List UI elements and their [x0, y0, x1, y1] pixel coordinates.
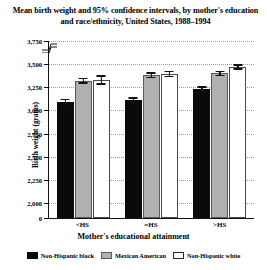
error-bar-cap-top [97, 75, 106, 76]
bar-group [57, 41, 110, 218]
error-bar-cap-bottom [233, 68, 242, 69]
error-bar [233, 64, 242, 70]
error-bar-cap-top [197, 86, 206, 87]
bar[interactable] [125, 100, 142, 218]
error-bar-cap-top [233, 64, 242, 65]
error-bar-cap-bottom [165, 76, 174, 77]
bar[interactable] [193, 89, 210, 218]
error-bar-cap-bottom [215, 75, 224, 76]
bar[interactable] [161, 74, 178, 218]
bar-slot [161, 41, 178, 218]
error-bar-cap-bottom [197, 91, 206, 92]
legend-label: Mexican American [115, 252, 166, 259]
legend-label: Non-Hispanic white [187, 252, 240, 259]
x-tick-labels: <HS=HS>HS [48, 221, 254, 229]
bar[interactable] [229, 67, 246, 218]
legend-label: Non-Hispanic black [41, 252, 94, 259]
legend-item[interactable]: Non-Hispanic black [27, 252, 94, 259]
y-axis-tick [44, 218, 48, 219]
y-axis-tick [44, 203, 48, 204]
y-tick-label: 2,250 [27, 176, 42, 183]
bar-slot [211, 41, 228, 218]
bar[interactable] [57, 102, 74, 218]
error-bar-cap-top [215, 71, 224, 72]
y-tick-label: 2,750 [27, 130, 42, 137]
y-axis-tick [44, 87, 48, 88]
error-bar-cap-bottom [61, 104, 70, 105]
bar[interactable] [143, 75, 160, 218]
y-tick-label: 3,750 [27, 38, 42, 45]
y-tick-label: 2,500 [27, 153, 42, 160]
x-axis-title: Mother's educational attainment [0, 232, 267, 241]
error-bar-cap-bottom [97, 83, 106, 84]
bar-groups [49, 41, 254, 218]
y-tick-label: 3,000 [27, 107, 42, 114]
error-bar-cap-top [165, 71, 174, 72]
bar[interactable] [93, 80, 110, 218]
error-bar [197, 86, 206, 92]
legend-item[interactable]: Non-Hispanic white [173, 252, 240, 259]
y-tick-label: 2,000 [27, 200, 42, 207]
legend-swatch [173, 252, 184, 259]
y-tick-label: 0 [39, 215, 42, 222]
error-bar [97, 75, 106, 84]
error-bar-cap-bottom [79, 82, 88, 83]
y-tick-label: 3,250 [27, 84, 42, 91]
error-bar-cap-bottom [147, 77, 156, 78]
chart-title: Mean birth weight and 95% confidence int… [10, 6, 261, 27]
error-bar-cap-top [147, 72, 156, 73]
y-axis-tick [44, 180, 48, 181]
y-tick-label: 3,500 [27, 61, 42, 68]
error-bar-cap-top [129, 97, 138, 98]
x-tick-label: =HS [121, 221, 181, 229]
y-axis-tick [44, 157, 48, 158]
error-bar [61, 99, 70, 105]
plot-area: 3,7503,5003,2503,0002,7502,5002,2502,000… [48, 41, 254, 219]
error-bar [215, 71, 224, 77]
y-axis-tick [44, 64, 48, 65]
legend-swatch [101, 252, 112, 259]
birth-weight-bar-chart: Mean birth weight and 95% confidence int… [0, 0, 267, 270]
chart-legend: Non-Hispanic blackMexican AmericanNon-Hi… [0, 252, 267, 259]
error-bar [165, 71, 174, 77]
bar-slot [75, 41, 92, 218]
error-bar [147, 72, 156, 78]
y-axis-tick [44, 110, 48, 111]
bar-slot [143, 41, 160, 218]
bar[interactable] [211, 73, 228, 218]
bar-slot [229, 41, 246, 218]
error-bar-cap-top [79, 78, 88, 79]
legend-item[interactable]: Mexican American [101, 252, 166, 259]
x-tick-label: >HS [190, 221, 250, 229]
bar-slot [125, 41, 142, 218]
legend-swatch [27, 252, 38, 259]
x-tick-label: <HS [52, 221, 112, 229]
y-axis-tick [44, 134, 48, 135]
error-bar-cap-bottom [129, 102, 138, 103]
bar-group [193, 41, 246, 218]
error-bar-cap-top [61, 99, 70, 100]
bar-group [125, 41, 178, 218]
error-bar [79, 78, 88, 84]
bar-slot [93, 41, 110, 218]
error-bar [129, 97, 138, 103]
bar[interactable] [75, 81, 92, 218]
bar-slot [193, 41, 210, 218]
bar-slot [57, 41, 74, 218]
